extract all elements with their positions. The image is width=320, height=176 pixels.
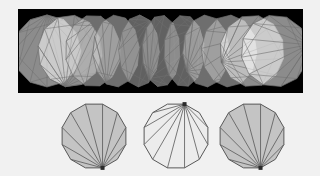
polygon-middle <box>144 102 208 168</box>
triangulated-polygon-row <box>62 102 284 170</box>
figure-canvas <box>0 0 320 176</box>
polygon-left <box>62 104 126 170</box>
fan-apex-marker <box>101 166 105 170</box>
fan-apex-marker <box>259 166 263 170</box>
polygon-right <box>220 104 284 170</box>
sequence-polygon <box>242 16 309 87</box>
figure-root <box>0 0 320 176</box>
fan-apex-marker <box>183 102 187 106</box>
morph-sequence-panel <box>13 9 308 93</box>
overlapping-polygon-sequence <box>13 15 308 87</box>
